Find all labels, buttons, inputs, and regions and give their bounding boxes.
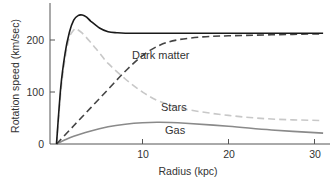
x-axis-title: Radius (kpc) xyxy=(159,165,218,177)
y-tick-label-0: 0 xyxy=(38,138,44,150)
gas-curve xyxy=(57,122,324,144)
dark-matter-label: Dark matter xyxy=(132,49,190,61)
y-tick-label-100: 100 xyxy=(26,86,44,98)
x-tick-label-10: 10 xyxy=(137,148,149,160)
y-axis-title: Rotation speed (km/sec) xyxy=(9,19,21,133)
stars-curve xyxy=(57,29,324,144)
gas-label: Gas xyxy=(165,124,186,136)
y-tick-label-200: 200 xyxy=(26,34,44,46)
x-tick-label-30: 30 xyxy=(309,148,321,160)
rotation-curve-chart: 0 100 200 10 20 30 Radius (kpc) Rotation… xyxy=(0,0,334,186)
stars-label: Stars xyxy=(161,101,187,113)
x-tick-label-20: 20 xyxy=(223,148,235,160)
